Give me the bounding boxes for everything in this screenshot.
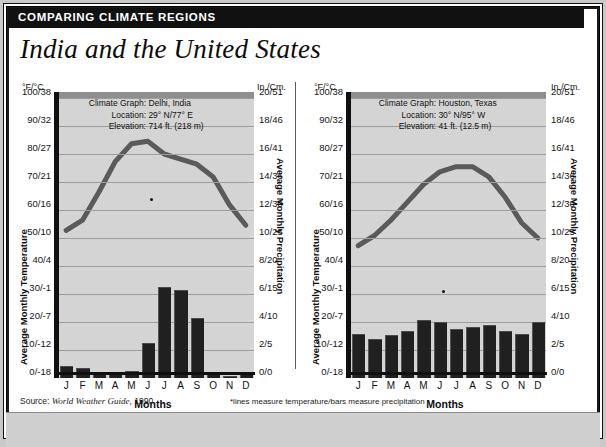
chart-delhi: °F/°C In./Cm. Average Monthly Temperatur… xyxy=(10,80,290,380)
x-tick-month: J xyxy=(58,380,74,391)
annot-graph-value-delhi: Delhi, India xyxy=(148,98,191,108)
x-tick-month: S xyxy=(189,380,205,391)
annot-location-key-delhi: Location: xyxy=(70,110,146,122)
precipitation-bar xyxy=(223,376,236,378)
y-tick-precipitation: 0/0 xyxy=(259,366,272,377)
x-tick-month: D xyxy=(238,380,254,391)
y-tick-precipitation: 10/25 xyxy=(551,226,575,237)
y-tick-temperature: 90/32 xyxy=(10,114,51,125)
annot-elevation-key-delhi: Elevation: xyxy=(70,121,146,133)
plot-area-delhi xyxy=(58,92,254,378)
source-credit: Source: World Weather Guide, 1990 xyxy=(20,396,153,406)
chart-divider xyxy=(295,82,296,369)
gridline xyxy=(58,210,254,211)
gridline xyxy=(350,294,546,295)
precipitation-bar xyxy=(174,290,187,378)
annotation-delhi: Climate Graph: Delhi, India Location: 29… xyxy=(70,98,204,133)
chart-houston: °F/°C In./Cm. Average Monthly Temperatur… xyxy=(302,80,594,380)
y-tick-temperature: 80/27 xyxy=(10,142,51,153)
annot-elevation-key-houston: Elevation: xyxy=(360,121,436,133)
gridline xyxy=(350,322,546,323)
gridline xyxy=(58,182,254,183)
y-tick-temperature: 60/16 xyxy=(302,198,343,209)
precipitation-bar xyxy=(450,329,463,378)
x-tick-month: N xyxy=(514,380,530,391)
annot-location-value-houston: 30° N/95° W xyxy=(438,110,485,120)
y-tick-precipitation: 10/25 xyxy=(259,226,283,237)
y-tick-precipitation: 2/5 xyxy=(259,338,272,349)
annot-location-value-delhi: 29° N/77° E xyxy=(148,110,193,120)
y-tick-temperature: 0/-18 xyxy=(10,366,51,377)
precipitation-bar xyxy=(401,331,414,378)
y-tick-precipitation: 20/51 xyxy=(259,86,283,97)
x-tick-month: M xyxy=(416,380,432,391)
precipitation-bar xyxy=(483,325,496,378)
x-axis-line-delhi xyxy=(54,372,255,375)
y-tick-precipitation: 6/15 xyxy=(259,282,278,293)
y-tick-temperature: 30/-1 xyxy=(302,282,343,293)
gridline xyxy=(58,266,254,267)
source-title: World Weather Guide xyxy=(52,396,130,406)
legend-note: *lines measure temperature/bars measure … xyxy=(230,397,425,406)
center-marker-delhi xyxy=(150,198,153,201)
precipitation-bar xyxy=(532,322,545,378)
center-marker-houston xyxy=(442,290,445,293)
y-tick-temperature: 70/21 xyxy=(10,170,51,181)
x-tick-month: S xyxy=(481,380,497,391)
x-tick-month: M xyxy=(91,380,107,391)
x-tick-month: J xyxy=(140,380,156,391)
annot-location-key-houston: Location: xyxy=(360,110,436,122)
x-tick-month: A xyxy=(173,380,189,391)
gridline xyxy=(350,154,546,155)
x-tick-month: J xyxy=(432,380,448,391)
y-tick-temperature: 20/-7 xyxy=(10,310,51,321)
x-tick-month: A xyxy=(107,380,123,391)
climate-comparison-page: COMPARING CLIMATE REGIONS India and the … xyxy=(0,0,606,447)
page-title: India and the United States xyxy=(20,34,321,65)
gridline xyxy=(58,322,254,323)
x-tick-month: O xyxy=(205,380,221,391)
x-tick-month: O xyxy=(497,380,513,391)
x-tick-month: D xyxy=(530,380,546,391)
y-tick-precipitation: 4/10 xyxy=(259,310,278,321)
y-tick-precipitation: 8/20 xyxy=(551,254,570,265)
annot-graph-key-houston: Climate Graph: xyxy=(360,98,436,110)
x-tick-month: F xyxy=(367,380,383,391)
annot-elevation-value-delhi: 714 ft. (218 m) xyxy=(148,121,203,131)
y-tick-temperature: 50/10 xyxy=(10,226,51,237)
y-tick-temperature: 100/38 xyxy=(10,86,51,97)
x-tick-month: M xyxy=(383,380,399,391)
y-tick-precipitation: 0/0 xyxy=(551,366,564,377)
y-tick-temperature: 70/21 xyxy=(302,170,343,181)
precipitation-bar xyxy=(434,322,447,378)
x-axis-line-houston xyxy=(346,372,547,375)
y-tick-precipitation: 8/20 xyxy=(259,254,278,265)
y-tick-temperature: 20/-7 xyxy=(302,310,343,321)
y-tick-precipitation: 18/46 xyxy=(551,114,575,125)
y-tick-precipitation: 12/30 xyxy=(551,198,575,209)
y-tick-precipitation: 6/15 xyxy=(551,282,570,293)
y-tick-temperature: 90/32 xyxy=(302,114,343,125)
source-prefix: Source: xyxy=(20,396,49,406)
precipitation-bar xyxy=(466,327,479,378)
y-tick-precipitation: 12/30 xyxy=(259,198,283,209)
source-year: , 1990 xyxy=(130,396,154,406)
y-tick-precipitation: 16/41 xyxy=(259,142,283,153)
x-tick-month: A xyxy=(399,380,415,391)
precipitation-bar xyxy=(191,318,204,378)
y-tick-temperature: 40/4 xyxy=(10,254,51,265)
gridline xyxy=(350,238,546,239)
x-tick-month: M xyxy=(124,380,140,391)
y-axis-line-delhi xyxy=(54,92,59,378)
gridline xyxy=(58,350,254,351)
page-bottom-strip xyxy=(6,412,600,447)
annot-graph-value-houston: Houston, Texas xyxy=(438,98,496,108)
x-tick-month: J xyxy=(448,380,464,391)
precipitation-bar xyxy=(417,320,430,378)
y-tick-temperature: 100/38 xyxy=(302,86,343,97)
plot-area-houston xyxy=(350,92,546,378)
y-tick-temperature: 10/-12 xyxy=(10,338,51,349)
gridline xyxy=(58,294,254,295)
x-tick-month: J xyxy=(156,380,172,391)
x-tick-month: J xyxy=(350,380,366,391)
